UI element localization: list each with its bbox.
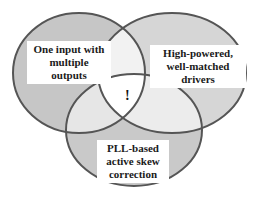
- label-bottom: PLL-based active skew correction: [97, 140, 169, 183]
- label-left-line: multiple: [27, 56, 111, 69]
- label-left-line: One input with: [27, 43, 111, 56]
- label-bottom-line: PLL-based: [97, 142, 169, 155]
- label-bottom-line: correction: [97, 168, 169, 181]
- label-left: One input with multiple outputs: [27, 41, 111, 84]
- label-right-line: High-powered,: [150, 47, 246, 60]
- label-right: High-powered, well-matched drivers: [150, 45, 246, 88]
- center-exclamation: !: [125, 88, 130, 104]
- label-left-line: outputs: [27, 69, 111, 82]
- venn-diagram: One input with multiple outputs High-pow…: [0, 0, 258, 201]
- label-right-line: drivers: [150, 73, 246, 86]
- label-right-line: well-matched: [150, 60, 246, 73]
- label-bottom-line: active skew: [97, 155, 169, 168]
